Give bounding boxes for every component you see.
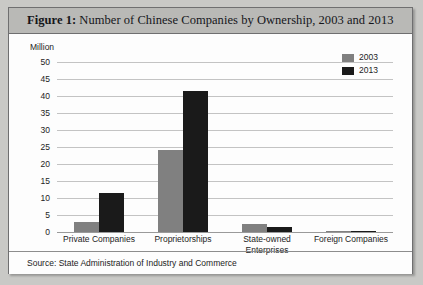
- plot-area: 05101520253035404550: [57, 62, 393, 232]
- y-axis-tick-label: 30: [41, 125, 50, 135]
- x-axis-label-line: Proprietorships: [141, 234, 225, 245]
- y-axis-tick-label: 15: [41, 176, 50, 186]
- y-axis-tick-label: 50: [41, 57, 50, 67]
- x-axis-label-line: State-owned: [225, 234, 309, 245]
- bar-2003-2: [242, 224, 267, 232]
- chart-body: Million 20032013 05101520253035404550 Pr…: [9, 34, 412, 274]
- y-axis-unit-label: Million: [30, 42, 54, 52]
- source-note: Source: State Administration of Industry…: [27, 258, 237, 268]
- bar-2003-1: [158, 150, 183, 232]
- y-axis-tick-label: 25: [41, 142, 50, 152]
- figure-container: Figure 1: Number of Chinese Companies by…: [8, 7, 413, 274]
- gridline: [57, 113, 393, 114]
- bar-2013-1: [183, 91, 208, 232]
- y-axis-tick-label: 45: [41, 74, 50, 84]
- x-axis-label-3: Foreign Companies: [309, 234, 393, 245]
- legend-label: 2003: [359, 53, 378, 62]
- figure-title-bar: Figure 1: Number of Chinese Companies by…: [9, 8, 412, 34]
- figure-title-text: Number of Chinese Companies by Ownership…: [76, 13, 393, 27]
- gridline: [57, 164, 393, 165]
- source-divider: [9, 251, 412, 252]
- x-axis-label-1: Proprietorships: [141, 234, 225, 245]
- y-axis-tick-label: 10: [41, 193, 50, 203]
- gridline: [57, 147, 393, 148]
- x-axis-label-line: Enterprises: [225, 245, 309, 256]
- bar-2013-0: [99, 193, 124, 232]
- gridline: [57, 79, 393, 80]
- gridline: [57, 62, 393, 63]
- gridline: [57, 181, 393, 182]
- bar-2013-2: [267, 227, 292, 232]
- figure-number-label: Figure 1:: [27, 13, 76, 27]
- gridline: [57, 232, 393, 233]
- bar-2003-3: [326, 231, 351, 232]
- y-axis-tick-label: 5: [45, 210, 50, 220]
- x-axis-label-line: Private Companies: [57, 234, 141, 245]
- page-title: Figure 1: Number of Chinese Companies by…: [27, 13, 394, 28]
- gridline: [57, 130, 393, 131]
- x-axis-label-line: Foreign Companies: [309, 234, 393, 245]
- bar-2003-0: [74, 222, 99, 232]
- y-axis-tick-label: 20: [41, 159, 50, 169]
- gridline: [57, 96, 393, 97]
- bar-2013-3: [351, 231, 376, 232]
- legend-swatch-icon: [342, 54, 354, 62]
- y-axis-tick-label: 0: [45, 227, 50, 237]
- x-axis-label-0: Private Companies: [57, 234, 141, 245]
- y-axis-tick-label: 40: [41, 91, 50, 101]
- y-axis-tick-label: 35: [41, 108, 50, 118]
